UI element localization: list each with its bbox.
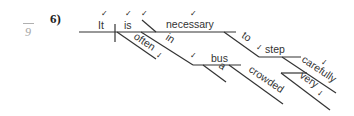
word-in: in — [164, 31, 178, 46]
check-icon: ✓ — [256, 43, 263, 52]
check-icon: ✓ — [141, 9, 148, 18]
check-icon: ✓ — [101, 9, 108, 18]
sentence-diagram: It is necessary bus step often in a crow… — [0, 0, 354, 116]
check-icon: ✓ — [321, 58, 328, 67]
word-crowded: crowded — [247, 63, 287, 95]
word-to: to — [240, 29, 254, 44]
check-icon: ✓ — [125, 9, 132, 18]
word-is: is — [124, 19, 132, 31]
check-icon: ✓ — [317, 89, 324, 98]
word-necessary: necessary — [166, 18, 215, 30]
predicate-slash — [142, 20, 156, 32]
word-often: often — [132, 30, 158, 53]
check-icon: ✓ — [190, 51, 197, 60]
word-it: It — [98, 19, 104, 31]
word-step: step — [265, 43, 285, 55]
check-icon: ✓ — [156, 51, 163, 60]
check-icon: ✓ — [190, 9, 197, 18]
